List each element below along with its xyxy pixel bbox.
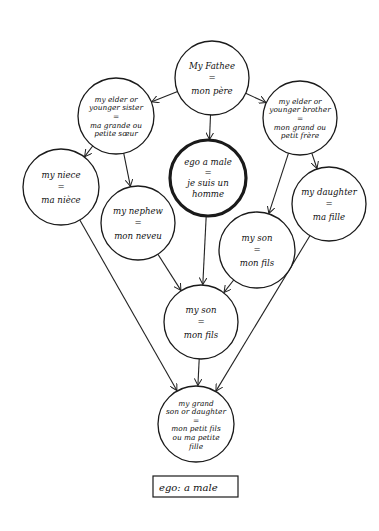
node-label-line: My Fathee — [188, 61, 235, 71]
edge-father-to-sister — [152, 92, 178, 102]
equals-sign: = — [197, 317, 204, 327]
equals-sign: = — [208, 73, 215, 83]
node-label-line: my son — [186, 305, 217, 315]
node-ego: ego a male=je suis unhomme — [170, 140, 246, 216]
node-label-line: petit frère — [281, 131, 320, 140]
edge-sister-to-niece — [85, 146, 93, 157]
edge-brother-to-daughter — [312, 153, 317, 168]
node-label-line: ma fille — [313, 212, 345, 222]
equals-sign: = — [134, 218, 141, 228]
node-label-line: mon fils — [184, 330, 219, 340]
node-sister: my elder oryounger sister=ma grande oupe… — [78, 78, 154, 154]
equals-sign: = — [253, 245, 260, 255]
node-label-line: my daughter — [301, 187, 357, 197]
equals-sign: = — [325, 199, 332, 209]
node-label-line: my niece — [41, 170, 80, 180]
node-label-line: ma nièce — [41, 195, 80, 205]
node-father: My Fathee=mon père — [175, 41, 249, 115]
edge-brother-to-son_right — [269, 153, 289, 213]
node-daughter: my daughter=ma fille — [292, 167, 366, 241]
edge-father-to-ego — [210, 115, 211, 140]
node-label-line: mon neveu — [114, 231, 162, 241]
equals-sign: = — [204, 168, 211, 178]
equals-sign: = — [57, 182, 64, 192]
node-label-line: my son — [242, 233, 273, 243]
node-label-line: my nephew — [113, 206, 163, 216]
node-son_right: my son=mon fils — [219, 212, 295, 288]
node-label-line: mon fils — [240, 258, 275, 268]
node-label-line: je suis un — [185, 178, 228, 188]
node-label-line: petite sœur — [94, 129, 138, 138]
node-label-line: homme — [192, 189, 224, 199]
node-label-line: ego a male — [184, 157, 231, 167]
edge-ego-to-son_center — [203, 216, 206, 285]
legend-box: ego: a male — [153, 476, 238, 497]
edge-nephew-to-son_center — [158, 254, 181, 290]
node-label-line: fille — [188, 442, 204, 451]
kinship-diagram: My Fathee=mon pèremy elder oryounger sis… — [0, 0, 379, 531]
node-brother: my elder oryounger brother=mon grand oup… — [263, 81, 337, 155]
edge-son_center-to-grandchild — [198, 359, 199, 386]
legend-label: ego: a male — [159, 482, 218, 493]
node-grandchild: my grandson or daughter=mon petit filsou… — [158, 386, 234, 462]
node-son_center: my son=mon fils — [164, 285, 238, 359]
edge-father-to-brother — [246, 93, 266, 102]
edge-son_right-to-son_center — [224, 280, 234, 292]
node-nephew: my nephew=mon neveu — [101, 186, 175, 260]
node-niece: my niece=ma nièce — [23, 149, 99, 225]
edge-sister-to-nephew — [124, 153, 131, 186]
node-label-line: mon père — [191, 86, 232, 96]
nodes-layer: My Fathee=mon pèremy elder oryounger sis… — [23, 41, 366, 462]
